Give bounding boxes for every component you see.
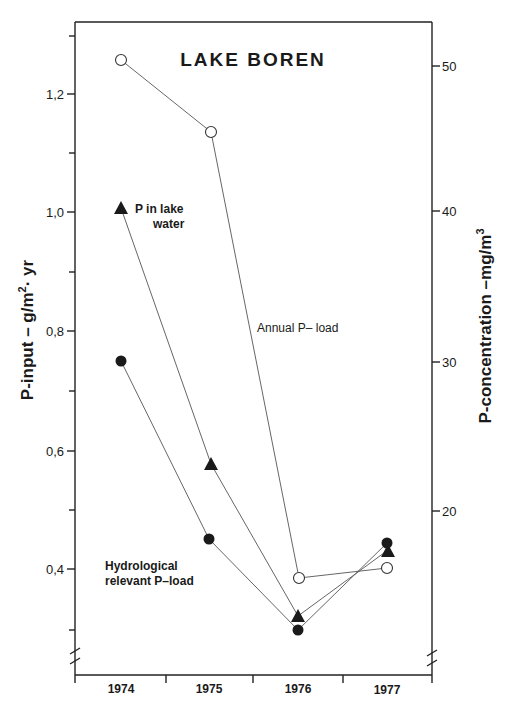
right-y-ticks bbox=[432, 66, 440, 511]
y-tick-label: 0,8 bbox=[46, 324, 64, 339]
left-axis-title: P-input – g/m2· yr bbox=[16, 259, 37, 400]
left-y-ticks bbox=[67, 36, 75, 630]
right-axis-title: P-concentration –mg/m3 bbox=[474, 228, 495, 423]
y-tick-label: 0,6 bbox=[46, 444, 64, 459]
y-right-tick-label: 40 bbox=[442, 204, 456, 219]
open-circle-marker bbox=[116, 55, 127, 66]
y-tick-label: 1,2 bbox=[46, 87, 64, 102]
x-tick-label: 1976 bbox=[285, 682, 312, 696]
y-right-tick-label: 30 bbox=[442, 355, 456, 370]
y-tick-label: 1,0 bbox=[46, 205, 64, 220]
series-hydrological-p-load-line bbox=[121, 361, 387, 630]
open-circle-marker bbox=[294, 573, 305, 584]
y-tick-label: 0,4 bbox=[46, 562, 64, 577]
annotation-hydrological: Hydrological bbox=[105, 559, 178, 573]
annotation-hydrological-2: relevant P–load bbox=[105, 574, 194, 588]
y-right-tick-label: 20 bbox=[442, 504, 456, 519]
open-circle-marker bbox=[382, 563, 393, 574]
x-tick-labels: 1974 1975 1976 1977 bbox=[108, 682, 401, 697]
open-circle-marker bbox=[206, 127, 217, 138]
triangle-marker bbox=[114, 201, 128, 214]
left-y-tick-labels: 1,2 1,0 0,8 0,6 0,4 bbox=[46, 87, 64, 577]
chart-title: LAKE BOREN bbox=[180, 49, 326, 70]
series-annual-p-load-line bbox=[121, 60, 387, 578]
annotation-p-in-lake-2: water bbox=[152, 217, 185, 231]
y-right-tick-label: 50 bbox=[442, 59, 456, 74]
right-y-tick-labels: 50 40 30 20 bbox=[442, 59, 456, 519]
filled-circle-marker bbox=[116, 356, 127, 367]
x-tick-label: 1974 bbox=[108, 682, 135, 696]
filled-circle-marker bbox=[382, 538, 393, 549]
annotation-p-in-lake: P in lake bbox=[135, 202, 184, 216]
triangle-marker bbox=[291, 609, 305, 622]
annotation-annual-p-load: Annual P– load bbox=[257, 321, 338, 335]
filled-circle-marker bbox=[204, 534, 215, 545]
x-tick-label: 1977 bbox=[374, 683, 401, 697]
x-tick-label: 1975 bbox=[196, 682, 223, 696]
filled-circle-marker bbox=[293, 625, 304, 636]
series-hydrological-p-load-markers bbox=[116, 356, 393, 636]
triangle-marker bbox=[204, 457, 218, 470]
series-p-in-lake-water-line bbox=[121, 208, 388, 616]
chart: 1,2 1,0 0,8 0,6 0,4 50 40 30 20 1974 197… bbox=[0, 0, 512, 710]
series-annual-p-load-markers bbox=[116, 55, 393, 584]
